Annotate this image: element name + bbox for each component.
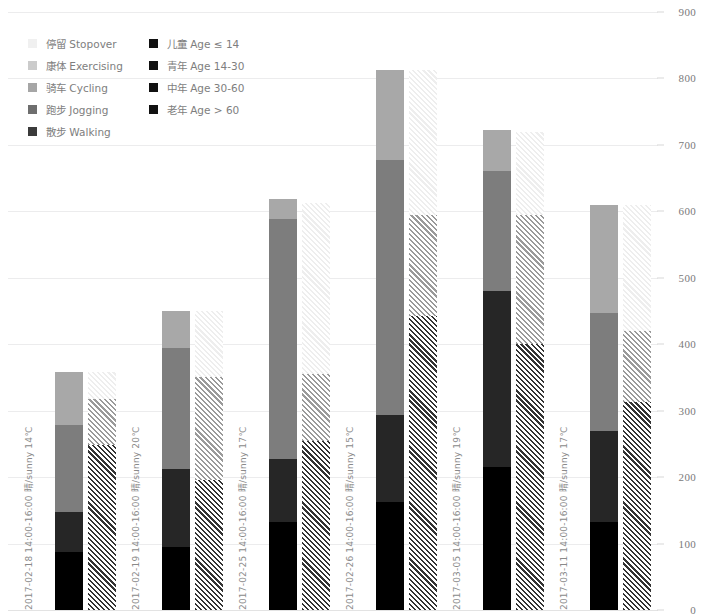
bar-segment[interactable] <box>302 374 330 440</box>
bar-segment[interactable] <box>55 512 83 552</box>
bar-segment[interactable] <box>88 445 116 610</box>
y-tick-label-100: 100 <box>679 538 696 550</box>
y-tick-mark-900 <box>657 12 664 13</box>
bar-segment[interactable] <box>376 415 404 501</box>
x-axis-label: 2017-02-25 14:00-16:00 晴/sunny 17℃ <box>236 426 249 610</box>
legend-swatch-age-child-icon <box>149 39 158 48</box>
y-tick-label-300: 300 <box>679 405 696 417</box>
bar-segment[interactable] <box>302 441 330 610</box>
bar-segment[interactable] <box>483 467 511 610</box>
legend-item-label: 散步 Walking <box>46 124 111 139</box>
legend-item-label: 康体 Exercising <box>46 58 123 73</box>
y-tick-label-900: 900 <box>679 6 696 18</box>
bar-segment[interactable] <box>162 348 190 470</box>
legend-item-label: 青年 Age 14-30 <box>167 58 245 73</box>
bar-segment[interactable] <box>88 399 116 446</box>
bar-segment[interactable] <box>590 431 618 522</box>
y-tick-mark-300 <box>657 410 664 411</box>
bar-segment[interactable] <box>269 199 297 219</box>
stacked-bar-chart: 9008007006005004003002001000 2017-02-18 … <box>0 0 704 615</box>
bar-segment[interactable] <box>162 547 190 610</box>
bar-segment[interactable] <box>195 377 223 479</box>
y-tick-mark-500 <box>657 277 664 278</box>
bar-group[interactable] <box>269 12 330 610</box>
x-axis-label: 2017-02-19 14:00-16:00 晴/sunny 20℃ <box>129 426 142 610</box>
bar-segment[interactable] <box>409 316 437 610</box>
bar-segment[interactable] <box>376 70 404 160</box>
bar-segment[interactable] <box>55 552 83 610</box>
bar-segment[interactable] <box>516 344 544 610</box>
bar-segment[interactable] <box>269 459 297 522</box>
age-legend-item[interactable]: 青年 Age 14-30 <box>149 58 245 72</box>
age-legend-item[interactable]: 中年 Age 30-60 <box>149 80 245 94</box>
bar-segment[interactable] <box>269 522 297 610</box>
y-tick-label-800: 800 <box>679 72 696 84</box>
age-legend-item[interactable]: 儿童 Age ≤ 14 <box>149 36 245 50</box>
activity-legend-item[interactable]: 散步 Walking <box>28 124 123 138</box>
y-tick-mark-400 <box>657 344 664 345</box>
bar-segment[interactable] <box>162 469 190 547</box>
y-tick-label-600: 600 <box>679 205 696 217</box>
bar-segment[interactable] <box>590 313 618 431</box>
legend-item-label: 中年 Age 30-60 <box>167 80 245 95</box>
y-tick-label-700: 700 <box>679 139 696 151</box>
legend-column-age: 儿童 Age ≤ 14青年 Age 14-30中年 Age 30-60老年 Ag… <box>149 36 245 138</box>
bar-segment[interactable] <box>55 372 83 425</box>
bar-segment[interactable] <box>195 311 223 377</box>
y-tick-mark-0 <box>657 610 664 611</box>
bar-segment[interactable] <box>409 215 437 316</box>
bar-segment[interactable] <box>590 522 618 610</box>
y-tick-label-500: 500 <box>679 272 696 284</box>
legend-item-label: 儿童 Age ≤ 14 <box>167 36 239 51</box>
bar-segment[interactable] <box>516 132 544 215</box>
bar-segment[interactable] <box>162 311 190 348</box>
x-axis-label: 2017-03-05 14:00-16:00 晴/sunny 19℃ <box>450 426 463 610</box>
x-axis-label: 2017-02-18 14:00-16:00 晴/sunny 14℃ <box>22 426 35 610</box>
legend-swatch-cycling-icon <box>28 83 37 92</box>
legend-item-label: 老年 Age > 60 <box>167 102 239 117</box>
activity-legend-item[interactable]: 跑步 Jogging <box>28 102 123 116</box>
y-tick-label-200: 200 <box>679 471 696 483</box>
activity-legend-item[interactable]: 康体 Exercising <box>28 58 123 72</box>
y-tick-label-0: 0 <box>690 604 696 615</box>
legend-item-label: 跑步 Jogging <box>46 102 108 117</box>
legend-swatch-walking-icon <box>28 127 37 136</box>
y-tick-mark-200 <box>657 477 664 478</box>
bar-segment[interactable] <box>376 160 404 416</box>
bar-segment[interactable] <box>623 402 651 610</box>
activity-legend-item[interactable]: 骑车 Cycling <box>28 80 123 94</box>
bar-segment[interactable] <box>195 480 223 610</box>
x-axis-label: 2017-03-11 14:00-16:00 晴/sunny 17℃ <box>557 426 570 610</box>
y-tick-mark-800 <box>657 78 664 79</box>
bar-segment[interactable] <box>88 372 116 399</box>
bar-segment[interactable] <box>376 502 404 610</box>
bar-segment[interactable] <box>55 425 83 511</box>
bar-segment[interactable] <box>483 291 511 467</box>
bar-segment[interactable] <box>623 205 651 331</box>
bar-segment[interactable] <box>409 70 437 215</box>
age-legend-item[interactable]: 老年 Age > 60 <box>149 102 245 116</box>
bar-segment[interactable] <box>516 215 544 345</box>
bar-segment[interactable] <box>269 219 297 458</box>
y-tick-mark-700 <box>657 144 664 145</box>
x-axis-label: 2017-02-26 14:00-16:00 晴/sunny 15℃ <box>343 426 356 610</box>
bar-segment[interactable] <box>483 171 511 291</box>
legend-swatch-age-middle-icon <box>149 83 158 92</box>
chart-legend: 停留 Stopover康体 Exercising骑车 Cycling跑步 Jog… <box>28 36 248 138</box>
bar-group[interactable] <box>376 12 437 610</box>
bar-group[interactable] <box>590 12 651 610</box>
legend-item-label: 停留 Stopover <box>46 36 117 51</box>
legend-swatch-stopover-icon <box>28 39 37 48</box>
bar-segment[interactable] <box>590 205 618 313</box>
bar-segment[interactable] <box>483 130 511 171</box>
y-tick-label-400: 400 <box>679 338 696 350</box>
legend-item-label: 骑车 Cycling <box>46 80 108 95</box>
activity-legend-item[interactable]: 停留 Stopover <box>28 36 123 50</box>
legend-column-activity: 停留 Stopover康体 Exercising骑车 Cycling跑步 Jog… <box>28 36 123 138</box>
bar-segment[interactable] <box>302 203 330 374</box>
y-tick-mark-600 <box>657 211 664 212</box>
bar-group[interactable] <box>483 12 544 610</box>
x-axis-baseline <box>8 610 658 611</box>
bar-segment[interactable] <box>623 331 651 402</box>
legend-swatch-exercising-icon <box>28 61 37 70</box>
